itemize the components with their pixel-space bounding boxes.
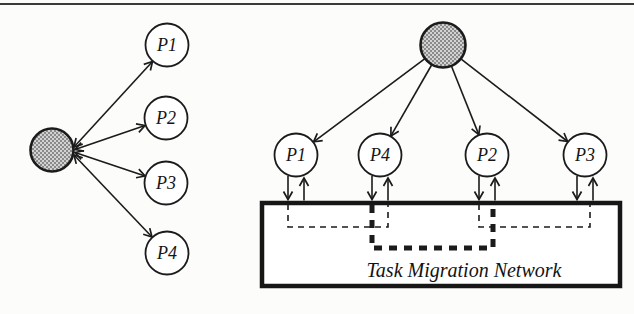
left-node-p3-label: P3 — [155, 173, 176, 193]
right-node-p4-label: P4 — [369, 145, 390, 165]
left-star-diagram: P1 P2 P3 P4 — [31, 24, 189, 275]
link-hub-p3 — [75, 153, 145, 177]
node-box-exchange-arrows — [288, 176, 593, 201]
left-links — [74, 62, 153, 238]
left-node-p4-label: P4 — [156, 243, 177, 263]
task-migration-network-label: Task Migration Network — [367, 259, 563, 282]
link-hub-p1 — [74, 62, 153, 148]
left-node-p1-label: P1 — [156, 35, 177, 55]
right-processor-nodes — [275, 134, 607, 177]
right-fanout-links — [314, 59, 568, 142]
link-hub-p4 — [74, 155, 152, 237]
figure-canvas: P1 P2 P3 P4 — [0, 0, 634, 314]
link-hub-p4 — [391, 65, 432, 136]
left-scheduler-hub-node — [31, 129, 74, 172]
right-node-p2-label: P2 — [476, 145, 497, 165]
migration-diagram-svg: P1 P2 P3 P4 — [0, 0, 634, 314]
left-node-p2-label: P2 — [155, 108, 176, 128]
right-scheduler-hub-node — [421, 23, 466, 68]
link-hub-p1 — [314, 59, 425, 142]
right-migration-diagram: P1 P4 P2 P3 Task Migration Network — [262, 23, 620, 287]
right-node-p1-label: P1 — [285, 145, 306, 165]
link-hub-p2 — [75, 126, 145, 150]
right-node-p3-label: P3 — [574, 145, 595, 165]
link-hub-p2 — [452, 66, 479, 134]
